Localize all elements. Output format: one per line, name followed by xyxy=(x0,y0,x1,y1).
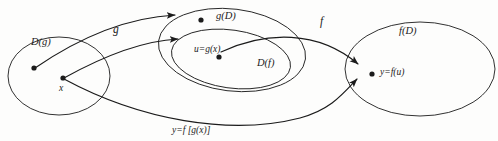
arrow-label-f: f xyxy=(320,16,323,28)
point-dot-domain-g xyxy=(31,65,36,70)
arrow-label-g: g xyxy=(113,24,119,36)
point-dot-u xyxy=(216,54,221,59)
set-ellipse-image-f xyxy=(345,22,495,116)
set-label-image-f: f(D) xyxy=(399,26,417,37)
set-label-domain-g: D(g) xyxy=(31,37,51,48)
diagram-vector-layer xyxy=(0,0,498,141)
point-dot-image-g xyxy=(198,17,203,22)
set-label-domain-f: D(f) xyxy=(257,58,275,69)
point-label-u: u=g(x) xyxy=(194,45,220,55)
point-dot-x xyxy=(60,75,65,80)
arrow-label-composite: y=f [g(x)] xyxy=(172,126,210,136)
point-label-x: x xyxy=(59,84,63,94)
set-ellipse-domain-f xyxy=(168,22,295,96)
set-ellipse-domain-g xyxy=(8,37,110,115)
arrow-path-composite xyxy=(64,79,357,125)
arrow-path-g-outer xyxy=(35,15,175,68)
point-dot-y xyxy=(369,71,374,76)
mapping-diagram-figure: D(g) g(D) D(f) f(D) x u=g(x) y=f(u) g f … xyxy=(0,0,498,141)
arrow-path-g-inner xyxy=(64,39,178,78)
set-label-image-g: g(D) xyxy=(216,11,236,22)
point-label-y: y=f(u) xyxy=(380,68,404,78)
